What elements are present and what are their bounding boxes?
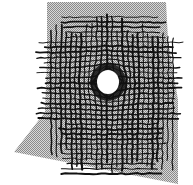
- center-hole: [97, 70, 119, 94]
- crosshatch-illustration: [0, 0, 193, 185]
- image-stage: [0, 0, 193, 185]
